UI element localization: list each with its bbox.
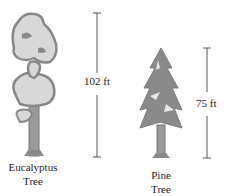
eucalyptus-name: Eucalyptus Tree bbox=[2, 160, 64, 188]
pine-name: Pine Tree bbox=[141, 168, 181, 196]
eucalyptus-name-line2: Tree bbox=[2, 174, 64, 188]
pine-tree-illustration bbox=[140, 48, 182, 158]
pine-height-label: 75 ft bbox=[196, 97, 216, 109]
pine-name-line1: Pine bbox=[141, 168, 181, 182]
pine-name-line2: Tree bbox=[141, 182, 181, 196]
eucalyptus-height-label: 102 ft bbox=[84, 75, 110, 87]
eucalyptus-name-line1: Eucalyptus bbox=[2, 160, 64, 174]
eucalyptus-tree-illustration bbox=[13, 14, 57, 156]
